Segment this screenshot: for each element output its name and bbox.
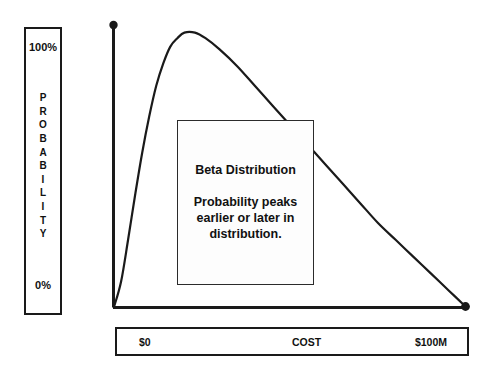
callout-body: Probability peaks earlier or later in di…: [178, 194, 313, 242]
cost-axis-title: COST: [292, 336, 321, 348]
cost-max-label: $100M: [415, 336, 447, 348]
beta-distribution-figure: 100% P R O B A B I L I T Y 0% Beta Distr…: [0, 0, 494, 373]
curve-end-marker: [461, 302, 470, 311]
cost-axis-box: $0 COST $100M: [115, 327, 469, 356]
callout-title: Beta Distribution: [195, 163, 296, 177]
y-axis-top-marker: [109, 21, 117, 29]
cost-min-label: $0: [139, 336, 151, 348]
callout-box: Beta Distribution Probability peaks earl…: [177, 120, 314, 285]
